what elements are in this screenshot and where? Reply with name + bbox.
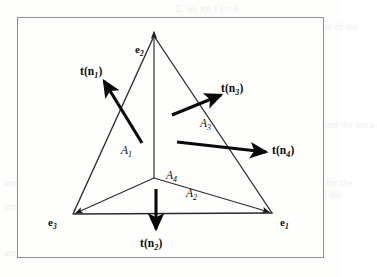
traction-label-tn3: t(n3) [221, 83, 243, 97]
basis-label-e3: e3 [48, 217, 57, 231]
area-label-A2-base: A [186, 187, 193, 199]
traction-label-tn2-base: t(n [140, 237, 154, 249]
area-label-A1-base: A [121, 144, 128, 156]
area-label-A1: A1 [121, 145, 132, 159]
traction-label-tn1-base: t(n [80, 65, 94, 77]
arrow-tn3 [172, 95, 221, 115]
traction-label-tn4-tail: ) [290, 144, 294, 156]
edge-apex-to-e1 [154, 36, 272, 213]
basis-label-e1: e1 [280, 217, 289, 231]
traction-label-tn2-tail: ) [158, 237, 162, 249]
area-label-A4-subscript: 4 [173, 175, 177, 184]
traction-label-tn4-base: t(n [272, 144, 286, 156]
traction-label-tn4: t(n4) [272, 145, 294, 159]
traction-label-tn3-tail: ) [239, 82, 243, 94]
area-label-A3-subscript: 3 [207, 123, 211, 132]
basis-label-e2: e2 [135, 44, 144, 58]
area-label-A4-base: A [166, 169, 173, 181]
traction-label-tn1: t(n1) [80, 66, 102, 80]
basis-label-e2-subscript: 2 [140, 49, 144, 58]
edge-apex-to-e3 [73, 36, 154, 214]
area-label-A3-base: A [200, 117, 207, 129]
tetrahedron-edges [73, 32, 272, 214]
traction-label-tn3-base: t(n [221, 82, 235, 94]
area-label-A4: A4 [166, 170, 177, 184]
basis-label-e1-subscript: 1 [285, 222, 289, 231]
traction-label-tn2: t(n2) [140, 238, 162, 252]
arrow-tn4 [177, 142, 266, 152]
edge-e3-to-e1 [74, 213, 272, 214]
traction-label-tn1-tail: ) [98, 65, 102, 77]
basis-label-e3-subscript: 3 [53, 222, 57, 231]
area-label-A1-subscript: 1 [128, 150, 132, 159]
area-label-A3: A3 [200, 118, 211, 132]
area-label-A2-subscript: 2 [193, 193, 197, 202]
area-label-A2: A2 [186, 188, 197, 202]
